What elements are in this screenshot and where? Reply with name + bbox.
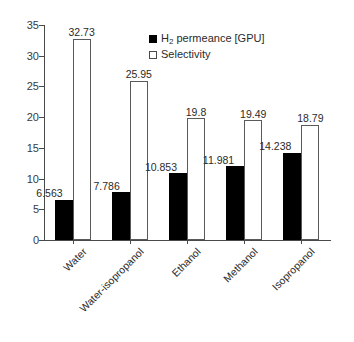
y-axis-tick-label: 20 [27,112,39,123]
y-axis-tick-label: 30 [27,50,39,61]
x-axis-tick-mark [244,240,245,244]
bar-value-label: 19.49 [240,109,266,120]
legend-label-permeance: H2 permeance [GPU] [161,31,265,47]
legend-swatch-filled-square-icon [149,35,157,43]
bar-value-label: 10.853 [145,162,177,173]
y-axis-tick-label: 15 [27,142,39,153]
bar-value-label: 19.8 [186,107,206,118]
x-axis-category-label: Water [61,246,88,273]
bar-value-label: 32.73 [68,27,94,38]
bar-selectivity[interactable]: 19.49 [244,120,262,240]
x-axis-tick-mark [130,240,131,244]
bar-value-label: 14.238 [259,141,291,152]
bar-h2-permeance[interactable]: 10.853 [169,173,187,240]
bar-chart-figure: 05101520253035 6.56332.737.78625.9510.85… [0,0,354,342]
y-axis-tick-label: 25 [27,81,39,92]
y-axis-tick-mark [39,240,44,241]
x-axis-category-label: Water-isopropanol [77,246,145,314]
x-axis-tick-mark [73,240,74,244]
legend-entry-selectivity: Selectivity [149,47,265,63]
bar-value-label: 18.79 [297,113,323,124]
bar-h2-permeance[interactable]: 6.563 [55,200,73,240]
bar-h2-permeance[interactable]: 11.981 [226,166,244,240]
x-axis-tick-mark [187,240,188,244]
bar-value-label: 6.563 [36,188,62,199]
x-axis-category-label: Isopropanol [271,246,317,292]
bar-selectivity[interactable]: 19.8 [187,118,205,240]
bar-value-label: 11.981 [203,155,234,166]
legend-label-selectivity: Selectivity [161,47,211,63]
bar-h2-permeance[interactable]: 7.786 [112,192,130,240]
chart-legend: H2 permeance [GPU] Selectivity [149,31,265,63]
y-axis-tick-label: 35 [27,20,39,31]
bar-h2-permeance[interactable]: 14.238 [283,153,301,240]
y-axis-tick-label: 10 [27,173,39,184]
bar-selectivity[interactable]: 18.79 [301,125,319,240]
legend-entry-permeance: H2 permeance [GPU] [149,31,265,47]
x-axis-tick-mark [301,240,302,244]
x-axis-category-label: Methanol [222,246,260,284]
bar-value-label: 7.786 [94,181,120,192]
y-axis-tick-label: 0 [33,235,39,246]
y-axis-tick-label: 5 [33,204,39,215]
bar-selectivity[interactable]: 32.73 [73,39,91,240]
x-axis-category-label: Ethanol [170,246,203,279]
bar-value-label: 25.95 [126,69,152,80]
legend-swatch-open-square-icon [149,51,157,59]
